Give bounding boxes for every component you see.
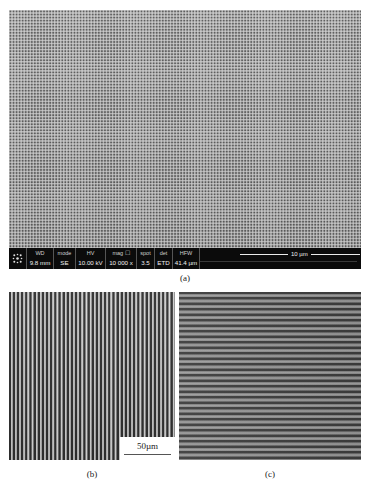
sem-info-bar: WD 9.8 mm mode SE HV 10.00 kV mag ☐ 10 0…: [9, 248, 361, 269]
info-cell-wd: WD 9.8 mm: [27, 248, 54, 269]
caption-c: (c): [255, 469, 285, 479]
scale-bar-label: 50µm: [120, 441, 175, 451]
scale-bar-line: [124, 454, 171, 455]
info-label: WD: [35, 251, 44, 257]
fei-logo-icon: [9, 248, 27, 269]
info-value: 9.8 mm: [30, 260, 51, 266]
sem-image-vertical-grating: 50µm: [9, 292, 175, 460]
caption-a: (a): [170, 273, 200, 283]
info-cell-mode: mode SE: [54, 248, 76, 269]
sem-image-dot-array: [9, 10, 361, 248]
info-cell-hfw: HFW 41.4 µm: [173, 248, 200, 269]
sem-image-horizontal-grating: [179, 292, 361, 460]
info-cell-hv: HV 10.00 kV: [76, 248, 106, 269]
info-cell-mag: mag ☐ 10 000 x: [106, 248, 137, 269]
info-value: ETD: [157, 260, 169, 266]
info-value: 41.4 µm: [175, 260, 197, 266]
info-value: 10.00 kV: [78, 260, 102, 266]
info-cell-spot: spot 3.5: [137, 248, 155, 269]
info-label: HFW: [180, 251, 193, 257]
scale-bar-label: 10 µm: [288, 251, 311, 257]
divider: [200, 261, 357, 262]
info-value: 3.5: [141, 260, 150, 266]
info-label: spot: [140, 251, 150, 257]
info-label: HV: [87, 251, 95, 257]
caption-b: (b): [77, 469, 107, 479]
info-cell-det: det ETD: [155, 248, 173, 269]
scale-bar-cell: 10 µm: [200, 248, 361, 269]
info-label: det: [160, 251, 168, 257]
info-label: mode: [58, 251, 72, 257]
scale-bar-box: 50µm: [120, 437, 175, 460]
info-value: 10 000 x: [109, 260, 133, 266]
info-value: SE: [60, 260, 68, 266]
info-label: mag ☐: [112, 251, 129, 257]
